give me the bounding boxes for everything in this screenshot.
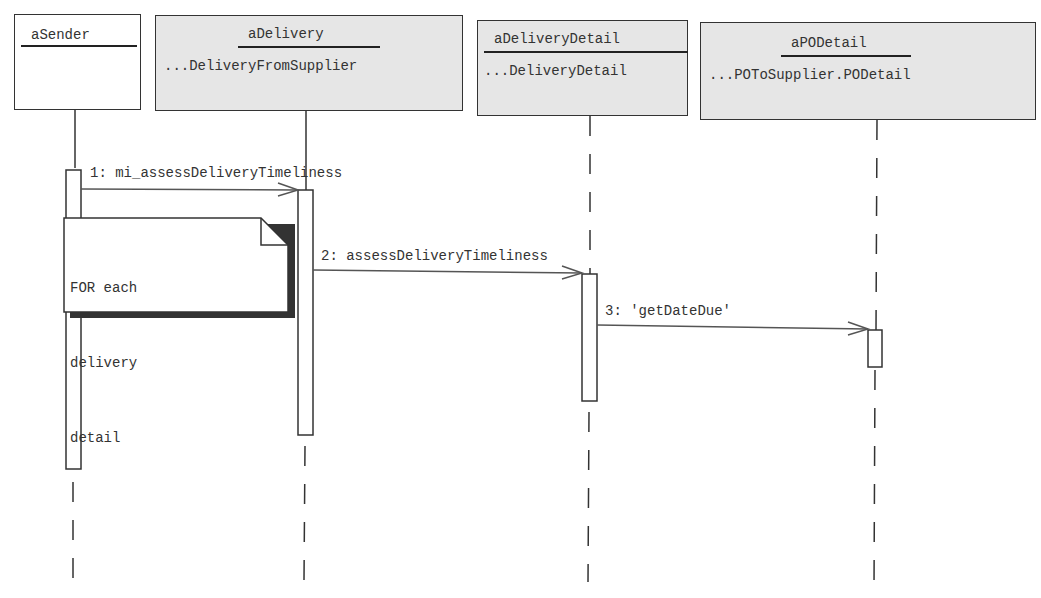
note-line-1: FOR each <box>70 276 137 301</box>
sequence-diagram-canvas <box>0 0 1041 598</box>
activation-apodetail <box>868 330 882 367</box>
message-arrow-1 <box>81 183 298 196</box>
activation-adeliverydetail <box>582 274 597 401</box>
note-line-3: detail <box>70 426 137 451</box>
note-line-2: delivery <box>70 351 137 376</box>
message-label-1: 1: mi_assessDeliveryTimeliness <box>90 165 342 181</box>
message-label-3: 3: 'getDateDue' <box>605 303 731 319</box>
message-arrow-3 <box>597 322 868 335</box>
message-arrow-2 <box>313 266 582 279</box>
message-label-2: 2: assessDeliveryTimeliness <box>321 248 548 264</box>
note-text: FOR each delivery detail <box>70 226 137 476</box>
activation-adelivery <box>298 190 313 435</box>
